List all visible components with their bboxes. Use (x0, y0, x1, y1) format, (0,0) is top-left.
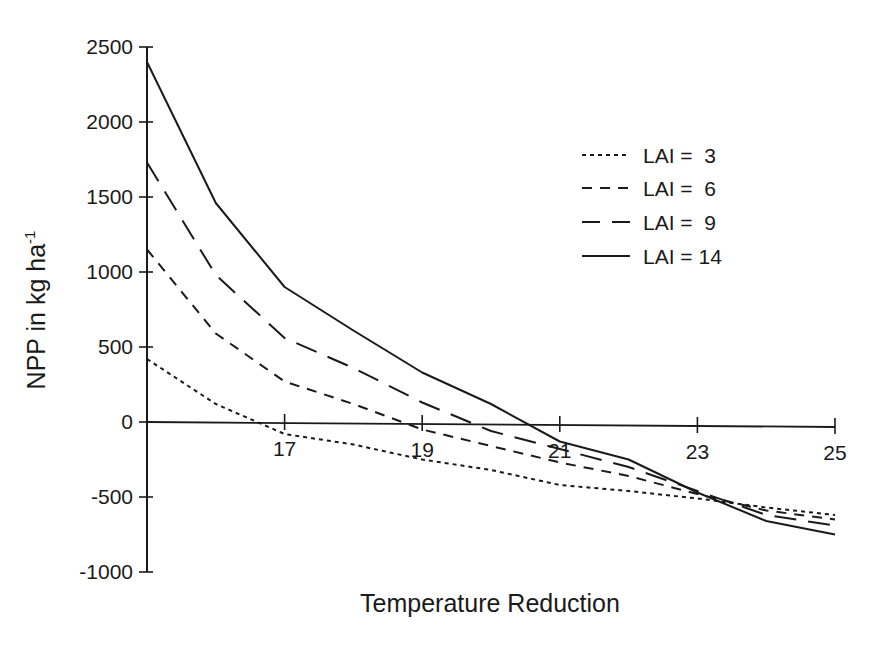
npp-line-chart: 25002000150010005000-500-10001719212325 … (0, 0, 887, 655)
y-tick-label: 2000 (86, 110, 133, 133)
x-tick-label: 17 (273, 437, 296, 460)
y-axis-title-group: NPP in kg ha-1 (21, 231, 50, 390)
x-tick-label: 25 (823, 441, 846, 464)
y-axis-title-superscript: -1 (21, 231, 38, 244)
legend-label: LAI = 6 (643, 177, 716, 200)
axes: 25002000150010005000-500-10001719212325 (79, 35, 846, 583)
series-line-short-dash (147, 250, 835, 520)
y-tick-label: 1000 (86, 260, 133, 283)
y-tick-label: 1500 (86, 185, 133, 208)
y-tick-label: -1000 (79, 560, 133, 583)
y-tick-label: 500 (98, 335, 133, 358)
y-tick-label: 0 (121, 410, 133, 433)
series-line-dotted (147, 359, 835, 515)
legend: LAI = 3LAI = 6LAI = 9LAI = 14 (582, 144, 722, 268)
y-tick-label: -500 (91, 485, 133, 508)
series-line-long-dash (147, 163, 835, 526)
y-axis-title: NPP in kg ha-1 (21, 231, 50, 390)
x-axis-title: Temperature Reduction (360, 589, 620, 617)
x-axis-line (147, 422, 835, 427)
x-tick-label: 23 (686, 440, 709, 463)
y-axis-title-text: NPP in kg ha (22, 244, 50, 390)
legend-label: LAI = 9 (643, 211, 716, 234)
y-tick-label: 2500 (86, 35, 133, 58)
series-lines (147, 62, 835, 535)
series-line-solid (147, 62, 835, 535)
legend-label: LAI = 14 (643, 245, 722, 268)
legend-label: LAI = 3 (643, 144, 716, 167)
